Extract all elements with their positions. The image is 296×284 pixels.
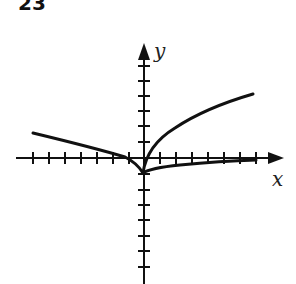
x-axis-arrow-icon <box>268 152 284 164</box>
graph: x y <box>0 0 296 284</box>
x-axis-label: x <box>272 167 283 191</box>
y-axis-label: y <box>153 39 166 63</box>
y-axis-arrow-icon <box>138 43 150 60</box>
y-axis: y <box>138 39 166 284</box>
